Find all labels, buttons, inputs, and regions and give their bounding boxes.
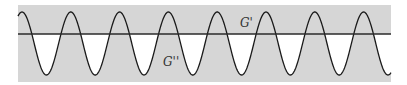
label-g-prime: G' (240, 16, 253, 30)
label-g-double-prime: G'' (163, 55, 179, 69)
sine-diagram: G' G'' (0, 0, 407, 85)
